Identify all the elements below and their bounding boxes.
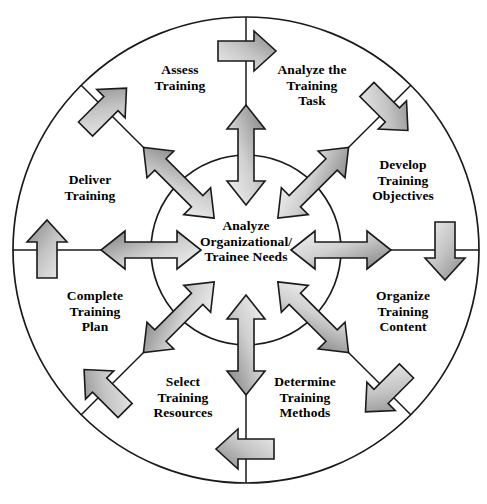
training-cycle-diagram: Analyze Organizational/ Trainee Needs As… — [0, 0, 487, 504]
wheel-graphic — [0, 0, 487, 504]
